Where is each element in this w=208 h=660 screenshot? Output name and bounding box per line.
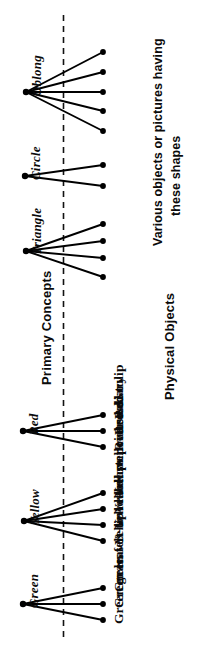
object-node-dot bbox=[100, 162, 106, 168]
object-node-dot bbox=[100, 585, 106, 591]
edge-0-4 bbox=[26, 92, 103, 131]
object-node-dot bbox=[100, 128, 106, 134]
section-title-primary-concepts: Primary Concepts bbox=[40, 271, 53, 385]
section-title-physical-objects: Physical Objects bbox=[163, 293, 176, 400]
diagram-canvas: Oblong Circle Triangle Red Yellow Green … bbox=[0, 0, 208, 660]
object-node-dot bbox=[100, 601, 106, 607]
object-node-dot bbox=[100, 490, 106, 496]
concept-label-circle: Circle bbox=[29, 146, 42, 180]
object-node-dot bbox=[100, 428, 106, 434]
object-node-dot bbox=[100, 274, 106, 280]
object-node-dot bbox=[100, 255, 106, 261]
caption-line-1: Various objects or pictures having bbox=[152, 38, 165, 246]
object-node-dot bbox=[100, 49, 106, 55]
object-node-dot bbox=[100, 444, 106, 450]
object-node-dot bbox=[100, 89, 106, 95]
concept-label-green: Green bbox=[27, 574, 40, 608]
object-node-dot bbox=[100, 412, 106, 418]
concept-label-triangle: Triangle bbox=[30, 208, 43, 255]
concept-label-red: Red bbox=[27, 413, 40, 435]
object-node-dot bbox=[100, 506, 106, 512]
object-node-dot bbox=[100, 221, 106, 227]
object-node-dot bbox=[100, 69, 106, 75]
object-node-dot bbox=[100, 522, 106, 528]
concept-label-oblong: Oblong bbox=[30, 55, 43, 96]
object-node-dot bbox=[100, 238, 106, 244]
object-node-dot bbox=[100, 108, 106, 114]
object-node-dot bbox=[100, 617, 106, 623]
object-label-green-grass: Green grass bbox=[112, 554, 126, 624]
object-node-dot bbox=[100, 183, 106, 189]
object-node-dot bbox=[100, 538, 106, 544]
concept-label-yellow: Yellow bbox=[28, 489, 41, 525]
caption-line-2: these shapes bbox=[170, 136, 183, 216]
